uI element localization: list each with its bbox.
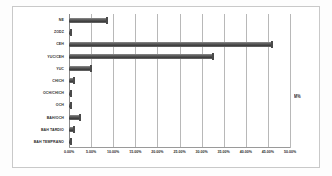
x-axis-tick-label: 40.00%: [240, 150, 252, 156]
x-axis-tick-label: 10.00%: [107, 150, 119, 156]
x-axis-tick-label: 35.00%: [218, 150, 230, 156]
bar-row: [69, 14, 290, 26]
bar-row: [69, 124, 290, 136]
bar-end-cap: [73, 126, 75, 133]
x-axis-labels: 0.00%5.00%10.00%15.00%20.00%25.00%30.00%…: [69, 150, 290, 162]
bar-ne: [69, 18, 107, 23]
bar-och-chich: [69, 91, 71, 96]
bar-row: [69, 26, 290, 38]
bar-zodz: [69, 30, 71, 35]
bar-ceh: [69, 42, 272, 47]
bar-bah-temprano: [69, 139, 71, 144]
y-axis-label-och: OCH: [56, 103, 64, 108]
y-axis-label-yuc: YUC: [56, 66, 64, 71]
x-axis-tick-label: 20.00%: [151, 150, 163, 156]
x-axis-tick-label: 50.00%: [284, 150, 296, 156]
gridline: [290, 14, 291, 148]
y-axis-label-bah-tardio: BAH TARDIO: [41, 127, 64, 132]
bar-end-cap: [70, 29, 72, 36]
bar-rows: [69, 14, 290, 148]
bar-end-cap: [73, 77, 75, 84]
bar-bah-tardio: [69, 127, 74, 132]
y-axis-label-bah-och: BAH/OCH: [47, 115, 64, 120]
bar-yuc-ceh: [69, 54, 213, 59]
x-axis-tick-label: 30.00%: [195, 150, 207, 156]
bar-row: [69, 87, 290, 99]
bar-chart: NEZODZCEHYUC/CEHYUCCHICHOCH/CHICHOCHBAH/…: [12, 6, 320, 168]
y-axis-label-yuc-ceh: YUC/CEH: [47, 54, 64, 59]
y-axis-label-ne: NE: [59, 18, 64, 23]
x-axis-tick-label: 45.00%: [262, 150, 274, 156]
bar-end-cap: [90, 65, 92, 72]
bar-row: [69, 75, 290, 87]
bar-end-cap: [212, 53, 214, 60]
x-axis-tick-label: 0.00%: [64, 150, 74, 156]
bar-row: [69, 51, 290, 63]
bar-row: [69, 99, 290, 111]
bar-chich: [69, 78, 74, 83]
x-axis-baseline: [69, 147, 290, 148]
plot-area: [69, 14, 290, 148]
y-axis-label-och-chich: OCH/CHICH: [43, 91, 64, 96]
bar-end-cap: [79, 114, 81, 121]
bar-end-cap: [271, 41, 273, 48]
bar-row: [69, 38, 290, 50]
y-axis-label-chich: CHICH: [52, 79, 64, 84]
bar-bah-och: [69, 115, 80, 120]
bar-och: [69, 103, 71, 108]
legend-entry-label: M%: [294, 95, 301, 101]
screenshot-root: NEZODZCEHYUC/CEHYUCCHICHOCH/CHICHOCHBAH/…: [0, 0, 332, 176]
y-axis-labels: NEZODZCEHYUC/CEHYUCCHICHOCH/CHICHOCHBAH/…: [12, 14, 67, 148]
x-axis-tick-label: 25.00%: [173, 150, 185, 156]
bar-end-cap: [70, 102, 72, 109]
bar-row: [69, 111, 290, 123]
y-axis-label-bah-temprano: BAH TEMPRANO: [34, 140, 64, 145]
bar-row: [69, 63, 290, 75]
bar-end-cap: [70, 138, 72, 145]
bar-end-cap: [106, 17, 108, 24]
x-axis-tick-label: 5.00%: [86, 150, 96, 156]
bar-end-cap: [70, 90, 72, 97]
bar-yuc: [69, 66, 91, 71]
chart-legend: M%: [294, 84, 301, 102]
y-axis-label-zodz: ZODZ: [54, 30, 64, 35]
x-axis-tick-label: 15.00%: [129, 150, 141, 156]
y-axis-label-ceh: CEH: [56, 42, 64, 47]
